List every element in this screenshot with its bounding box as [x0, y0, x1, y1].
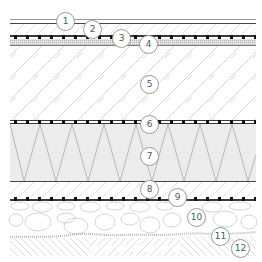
callout-1: 1 — [56, 12, 75, 31]
layer-5-slab — [10, 46, 256, 120]
section-diagram: 1 2 3 4 5 6 7 8 9 10 11 12 — [0, 0, 262, 262]
callout-2: 2 — [83, 20, 102, 39]
layer-9-membrane — [10, 197, 256, 201]
layer-1-top-surface — [10, 20, 256, 24]
layer-2-band — [10, 24, 256, 35]
callout-12: 12 — [231, 239, 250, 258]
layer-4-dotted-band — [10, 39, 256, 45]
callout-8: 8 — [140, 180, 159, 199]
callout-6: 6 — [140, 115, 159, 134]
callout-4: 4 — [139, 35, 158, 54]
layer-7-insulation — [10, 124, 256, 181]
callout-5: 5 — [140, 75, 159, 94]
callout-11: 11 — [211, 227, 230, 246]
layer-3-membrane — [10, 35, 256, 39]
callout-3: 3 — [112, 29, 131, 48]
callout-10: 10 — [187, 208, 206, 227]
layer-8-band — [10, 182, 256, 197]
callout-7: 7 — [140, 147, 159, 166]
layer-6-membrane — [10, 120, 256, 124]
layer-drawing — [0, 0, 262, 262]
callout-9: 9 — [168, 188, 187, 207]
